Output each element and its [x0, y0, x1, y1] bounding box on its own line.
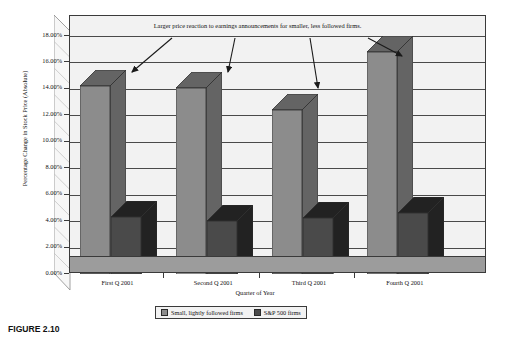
y-axis-line [69, 15, 70, 273]
legend-label: S&P 500 firms [264, 309, 301, 316]
y-tick-label: 8.00% [0, 164, 69, 170]
x-tick [259, 273, 260, 278]
legend-swatch-icon [161, 309, 168, 316]
y-tick-label: 14.00% [0, 84, 69, 90]
x-tick [354, 273, 355, 278]
gridline [70, 89, 485, 90]
y-tick-label: 18.00% [0, 32, 69, 38]
chart-container: 0.00%2.00%4.00%6.00%8.00%10.00%12.00%14.… [0, 0, 510, 340]
gridline [70, 62, 485, 63]
y-tick-label: 0.00% [0, 270, 69, 276]
chart-annotation: Larger price reaction to earnings announ… [140, 22, 375, 29]
legend-item-1[interactable]: S&P 500 firms [254, 309, 301, 316]
legend-label: Small, lightly followed firms [171, 309, 243, 316]
y-axis-title: Percentage Change in Stock Price (Absolu… [21, 39, 28, 219]
y-tick-label: 12.00% [0, 111, 69, 117]
y-tick-label: 4.00% [0, 217, 69, 223]
chart-floor [69, 256, 486, 273]
legend-swatch-icon [254, 309, 261, 316]
y-tick-label: 16.00% [0, 58, 69, 64]
x-axis-title: Quarter of Year [0, 289, 510, 296]
chart-legend: Small, lightly followed firms S&P 500 fi… [155, 306, 307, 319]
y-tick-label: 10.00% [0, 137, 69, 143]
x-tick-label: Second Q 2001 [168, 279, 258, 286]
y-tick-label: 2.00% [0, 243, 69, 249]
x-tick-label: Third Q 2001 [264, 279, 354, 286]
gridline [70, 36, 485, 37]
figure-caption: FIGURE 2.10 [8, 324, 60, 334]
x-tick [163, 273, 164, 278]
y-tick-label: 6.00% [0, 190, 69, 196]
x-tick-label: First Q 2001 [73, 279, 163, 286]
x-tick-label: Fourth Q 2001 [360, 279, 450, 286]
legend-item-0[interactable]: Small, lightly followed firms [161, 309, 243, 316]
plot-area [69, 15, 486, 271]
